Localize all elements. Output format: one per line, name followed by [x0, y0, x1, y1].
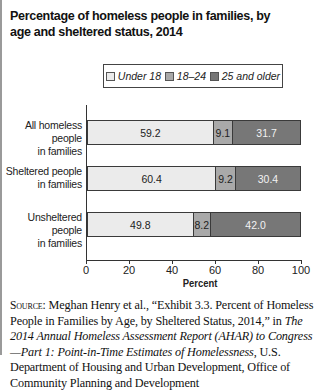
source-citation: Source: Meghan Henry et al., “Exhibit 3.… — [10, 298, 315, 391]
x-axis-title: Percent — [182, 277, 218, 289]
bar-segment: 59.2 — [87, 120, 214, 145]
bar-row: 49.88.242.0 — [87, 212, 301, 237]
bar-segment: 49.8 — [87, 212, 194, 237]
bar-segment: 9.1 — [214, 120, 233, 145]
source-text-1: Meghan Henry et al., “Exhibit 3.3. Perce… — [10, 298, 313, 328]
bar-segment: 9.2 — [216, 166, 236, 191]
bar-row: 59.29.131.7 — [87, 120, 301, 145]
category-label-line: Unsheltered people — [4, 211, 82, 237]
category-label: Unsheltered peoplein families — [4, 211, 82, 250]
bar-segment: 8.2 — [194, 212, 212, 237]
bar-value-label: 9.2 — [218, 173, 233, 185]
x-tick-label: 60 — [200, 264, 230, 276]
bar-value-label: 42.0 — [245, 219, 265, 231]
bar-segment: 42.0 — [211, 212, 301, 237]
x-axis — [86, 260, 302, 261]
bar-value-label: 8.2 — [195, 219, 210, 231]
x-tick-label: 80 — [243, 264, 273, 276]
bar-value-label: 30.4 — [258, 173, 278, 185]
bar-segment: 60.4 — [87, 166, 216, 191]
category-label: Sheltered peoplein families — [4, 165, 82, 191]
bar-value-label: 31.7 — [256, 127, 276, 139]
stacked-bar-chart: Percent All homeless peoplein families59… — [0, 0, 317, 300]
category-label-line: in families — [4, 178, 82, 191]
bar-value-label: 9.1 — [216, 127, 231, 139]
source-label: Source: — [10, 299, 46, 311]
x-tick-label: 40 — [157, 264, 187, 276]
bar-segment: 30.4 — [236, 166, 301, 191]
category-label-line: Sheltered people — [4, 165, 82, 178]
bar-segment: 31.7 — [233, 120, 301, 145]
x-tick-label: 100 — [286, 264, 316, 276]
category-label-line: All homeless people — [4, 119, 82, 145]
category-label-line: in families — [4, 145, 82, 158]
category-label-line: in families — [4, 237, 82, 250]
bar-value-label: 59.2 — [140, 127, 160, 139]
bar-value-label: 60.4 — [141, 173, 161, 185]
x-tick-label: 0 — [71, 264, 101, 276]
x-tick-label: 20 — [114, 264, 144, 276]
bar-value-label: 49.8 — [130, 219, 150, 231]
category-label: All homeless peoplein families — [4, 119, 82, 158]
bar-row: 60.49.230.4 — [87, 166, 301, 191]
